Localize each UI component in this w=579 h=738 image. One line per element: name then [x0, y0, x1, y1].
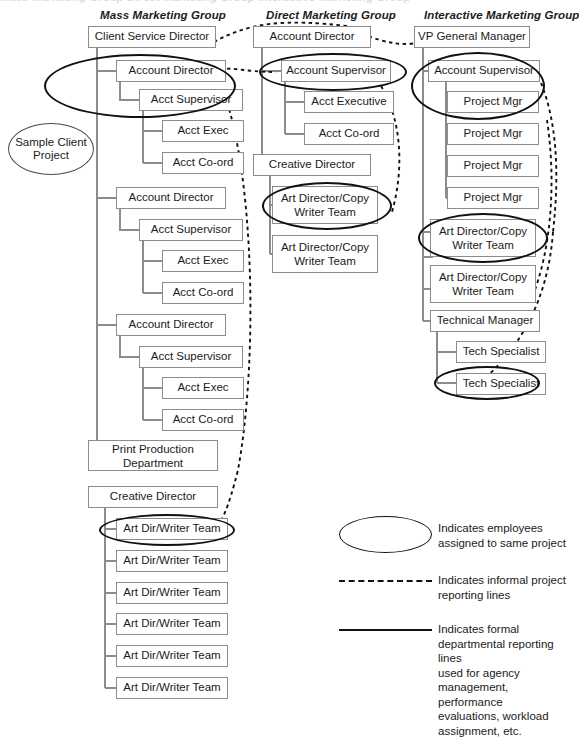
sample-client-project-ellipse: Sample Client Project — [8, 123, 94, 175]
legend-solid-line3: used for agency — [438, 666, 573, 681]
legend-dashed-line1: Indicates informal project — [438, 573, 570, 588]
node-client-service-director[interactable]: Client Service Director — [88, 26, 216, 48]
node-technical-manager[interactable]: Technical Manager — [430, 310, 540, 332]
node-creative-director-direct[interactable]: Creative Director — [253, 154, 371, 176]
node-account-director-direct[interactable]: Account Director — [253, 26, 371, 48]
node-tech-specialist-1[interactable]: Tech Specialist — [456, 341, 546, 363]
node-acct-supervisor-3[interactable]: Acct Supervisor — [139, 346, 243, 368]
legend-solid-line-icon — [339, 629, 432, 631]
group-title-direct: Direct Marketing Group — [266, 9, 396, 21]
node-art-director-copy-writer-team-direct-2[interactable]: Art Director/Copy Writer Team — [272, 235, 378, 273]
print-production-line1: Print Production — [112, 442, 194, 456]
node-art-dir-writer-team-6[interactable]: Art Dir/Writer Team — [116, 677, 228, 699]
node-print-production-department[interactable]: Print Production Department — [88, 440, 218, 471]
cropped-top-line: Mass Marketing Group Direct Marketing Gr… — [0, 0, 573, 9]
project-grouping-ellipse-art-dir-writer — [99, 514, 235, 546]
legend-solid-line4: management, performance — [438, 680, 573, 709]
node-acct-coord-1[interactable]: Acct Co-ord — [162, 152, 244, 174]
node-acct-exec-3[interactable]: Acct Exec — [162, 377, 244, 399]
print-production-line2: Department — [112, 456, 194, 470]
group-title-mass: Mass Marketing Group — [100, 9, 226, 21]
node-project-mgr-3[interactable]: Project Mgr — [447, 155, 539, 177]
project-grouping-ellipse-interactive-team — [418, 213, 548, 263]
legend-solid-line1: Indicates formal — [438, 622, 573, 637]
adcw-line2: Writer Team — [281, 254, 369, 268]
node-acct-coord-3[interactable]: Acct Co-ord — [162, 409, 244, 431]
legend-solid-line5: evaluations, workload — [438, 709, 573, 724]
legend-dashed-line-icon — [339, 580, 432, 582]
node-acct-exec-1[interactable]: Acct Exec — [162, 120, 244, 142]
group-title-interactive: Interactive Marketing Group — [424, 9, 579, 21]
adcw-line2: Writer Team — [439, 284, 527, 298]
node-art-dir-writer-team-3[interactable]: Art Dir/Writer Team — [116, 582, 228, 604]
legend-solid-line6: assignment, etc. — [438, 724, 573, 738]
project-grouping-ellipse-tech-specialist — [434, 366, 540, 400]
adcw-line1: Art Director/Copy — [281, 240, 369, 254]
node-project-mgr-4[interactable]: Project Mgr — [447, 187, 539, 209]
node-acct-exec-2[interactable]: Acct Exec — [162, 250, 244, 272]
legend-ellipse-line2: assigned to same project — [438, 536, 570, 551]
node-art-dir-writer-team-5[interactable]: Art Dir/Writer Team — [116, 645, 228, 667]
project-grouping-ellipse-direct-supervisor — [259, 53, 407, 91]
sample-label-line2: Project — [15, 149, 87, 163]
legend-dashed-line2: reporting lines — [438, 588, 570, 603]
project-grouping-ellipse-interactive-top — [411, 52, 545, 120]
node-acct-executive-direct[interactable]: Acct Executive — [304, 91, 394, 113]
project-grouping-ellipse-direct-team — [262, 182, 392, 230]
node-account-director-3[interactable]: Account Director — [116, 314, 226, 336]
node-account-director-2[interactable]: Account Director — [116, 187, 226, 209]
legend-solid-line2: departmental reporting lines — [438, 637, 573, 666]
node-art-dir-writer-team-2[interactable]: Art Dir/Writer Team — [116, 550, 228, 572]
legend-solid-text: Indicates formal departmental reporting … — [438, 622, 573, 738]
node-art-dir-writer-team-4[interactable]: Art Dir/Writer Team — [116, 613, 228, 635]
adcw-line1: Art Director/Copy — [439, 270, 527, 284]
node-creative-director-mass[interactable]: Creative Director — [88, 486, 218, 508]
project-grouping-ellipse-mass — [44, 54, 236, 118]
sample-label-line1: Sample Client — [15, 136, 87, 150]
legend-ellipse-icon — [339, 516, 432, 553]
legend-ellipse-text: Indicates employees assigned to same pro… — [438, 521, 570, 550]
node-acct-supervisor-2[interactable]: Acct Supervisor — [139, 219, 243, 241]
node-acct-coord-direct[interactable]: Acct Co-ord — [304, 123, 394, 145]
node-acct-coord-2[interactable]: Acct Co-ord — [162, 282, 244, 304]
node-project-mgr-2[interactable]: Project Mgr — [447, 123, 539, 145]
node-vp-general-manager[interactable]: VP General Manager — [414, 26, 530, 48]
legend-ellipse-line1: Indicates employees — [438, 521, 570, 536]
node-art-director-copy-writer-team-interactive-2[interactable]: Art Director/Copy Writer Team — [430, 265, 536, 303]
legend-dashed-text: Indicates informal project reporting lin… — [438, 573, 570, 602]
